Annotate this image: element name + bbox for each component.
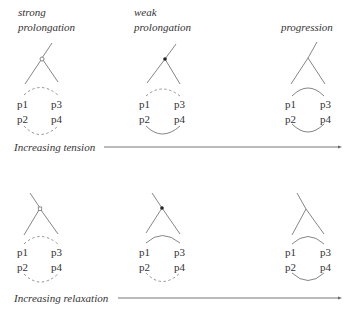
top-arc-dashed [24, 88, 58, 96]
label-p4: p4 [51, 113, 63, 125]
tree-left-branch [25, 60, 41, 84]
tree-right-branch [165, 59, 180, 84]
tree-trunk [165, 44, 176, 59]
panel-title-line-1: weak [134, 6, 158, 18]
panel-strong-prolongation: strong prolongation p1 p3 p2 p4 [17, 6, 76, 135]
bottom-arc-solid [292, 124, 324, 132]
tree-right-branch [43, 60, 58, 82]
label-p4: p4 [174, 261, 186, 273]
tree-left-branch [24, 210, 39, 235]
label-p1: p1 [139, 246, 150, 258]
label-p1: p1 [17, 98, 28, 110]
label-p3: p3 [51, 98, 63, 110]
tree-right-branch [162, 208, 180, 234]
label-p4: p4 [174, 113, 186, 125]
bottom-arc-dashed [146, 273, 180, 282]
tree-trunk [297, 193, 306, 209]
top-arc-dashed [24, 237, 58, 245]
row-tension: strong prolongation p1 p3 p2 p4 weak pro… [13, 6, 342, 153]
label-p1: p1 [285, 98, 296, 110]
axis-label-tension: Increasing tension [13, 141, 96, 153]
tree-left-branch [147, 59, 165, 83]
panel-weak-prolongation: weak prolongation p1 p3 p2 p4 [133, 6, 192, 134]
label-p2: p2 [17, 261, 28, 273]
row-relaxation: p1 p3 p2 p4 p1 p3 p2 p4 p1 p3 p [13, 193, 342, 304]
open-node-icon [38, 207, 41, 210]
panel-title: progression [280, 21, 333, 33]
label-p3: p3 [174, 246, 186, 258]
top-arc-solid [292, 88, 324, 96]
tree-left-branch [291, 58, 308, 84]
label-p2: p2 [285, 113, 296, 125]
label-p3: p3 [174, 98, 186, 110]
tree-trunk [42, 43, 52, 58]
axis-label-relaxation: Increasing relaxation [13, 292, 109, 304]
panel-progression-relax: p1 p3 p2 p4 [285, 193, 332, 281]
label-p1: p1 [139, 98, 150, 110]
top-arc-dashed [146, 89, 180, 96]
tree-left-branch [146, 208, 162, 233]
panel-weak-prolongation-relax: p1 p3 p2 p4 [139, 193, 186, 282]
bottom-arc-dashed [24, 126, 58, 135]
open-node-icon [40, 57, 44, 61]
label-p3: p3 [320, 246, 332, 258]
tree-trunk [308, 42, 317, 58]
panel-strong-prolongation-relax: p1 p3 p2 p4 [17, 193, 63, 282]
label-p3: p3 [320, 98, 332, 110]
bottom-arc-solid [146, 126, 180, 134]
label-p3: p3 [51, 246, 63, 258]
tree-right-branch [306, 209, 324, 234]
filled-node-icon [163, 57, 167, 61]
label-p2: p2 [285, 261, 296, 273]
tree-right-branch [308, 58, 325, 84]
bottom-arc-solid [292, 273, 324, 281]
panel-progression: progression p1 p3 p2 p4 [280, 21, 333, 132]
prolongation-diagram: strong prolongation p1 p3 p2 p4 weak pro… [0, 0, 353, 313]
arrowhead-icon [338, 297, 342, 300]
tree-right-branch [41, 210, 58, 234]
label-p4: p4 [320, 113, 332, 125]
label-p2: p2 [17, 113, 28, 125]
panel-title-line-1: strong [18, 6, 46, 18]
label-p1: p1 [17, 246, 28, 258]
bottom-arc-dashed [24, 274, 58, 282]
label-p2: p2 [139, 261, 150, 273]
tree-trunk [152, 193, 162, 208]
label-p2: p2 [139, 113, 150, 125]
label-p4: p4 [51, 261, 63, 273]
arrowhead-icon [338, 146, 342, 149]
panel-title-line-2: prolongation [17, 21, 76, 33]
top-arc-solid [146, 236, 180, 244]
label-p1: p1 [285, 246, 296, 258]
label-p4: p4 [320, 261, 332, 273]
tree-left-branch [292, 209, 306, 235]
panel-title-line-2: prolongation [133, 21, 192, 33]
top-arc-solid [292, 237, 324, 245]
tree-trunk [30, 193, 40, 208]
filled-node-icon [160, 206, 164, 210]
